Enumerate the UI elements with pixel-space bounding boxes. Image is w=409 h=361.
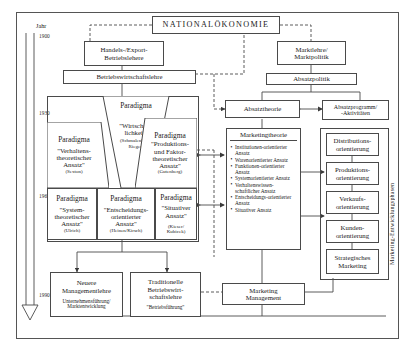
node-kundenorientierung[interactable]: Kunden- orientierung: [326, 220, 379, 243]
node-paradigma-systemtheoretisch[interactable]: Paradigma "System- theoretischer Ansatz"…: [47, 188, 97, 240]
system-head: Paradigma: [56, 195, 88, 203]
phase3-line2: orientierung: [336, 232, 369, 239]
list-item: Verhaltenswissen-schaftlicher Ansatz: [230, 182, 297, 195]
verhalten-head: Paradigma: [58, 136, 90, 144]
produktions-line2: und Faktor-: [154, 148, 186, 155]
traditionell-sub1: "Betriebsführung": [147, 305, 185, 311]
year-1990: 1990: [39, 292, 50, 298]
node-strategisches-marketing[interactable]: Strategisches Marketing: [326, 249, 379, 274]
list-item: Entscheidungs-orientierter Ansatz: [230, 194, 297, 207]
list-item: Funktionen-orientierter Ansatz: [230, 163, 297, 176]
verhalten-line2: theoretischer: [56, 154, 91, 161]
node-handels-export-betriebslehere[interactable]: Handels-/Export- Betriebslehere: [84, 41, 164, 66]
handels-line2: Betriebslehere: [104, 54, 143, 61]
marketingtheorie-title: Marketingtheorie: [230, 131, 297, 141]
entscheidung-line1: "Entscheidungs-: [104, 206, 149, 213]
verhalten-line1: "Verhaltens-: [57, 147, 91, 154]
absatzpolitik-label: Absatzpolitik: [293, 75, 330, 82]
phase2-line1: Verkaufs-: [339, 195, 365, 202]
system-line2: theoretischer: [54, 213, 89, 220]
diagram-canvas: NATIONALÖKONOMIE Jahr 1900 1930 1960 199…: [0, 0, 409, 361]
traditionell-line1: Traditionelle: [148, 278, 183, 285]
node-paradigma-produktions-faktortheoretisch[interactable]: Paradigma "Produktions- und Faktor- theo…: [135, 118, 197, 188]
node-marktlehre-marktpolitik[interactable]: Marktlehre/ Marktpolitik: [277, 41, 346, 65]
bwl-label: Betriebswirtschaftslehre: [96, 73, 162, 80]
axis-caption: Jahr: [36, 22, 46, 29]
produktions-line1: "Produktions-: [151, 140, 189, 147]
marketingtheorie-list: Institutionen-orientierter Ansatz Wareno…: [230, 144, 297, 213]
marketing-entwicklungsphasen-label: Marketing-Entwicklungsphasen: [389, 145, 395, 265]
situativ-line2: Ansatz": [165, 212, 187, 219]
neuere-line2: Managementlehre: [62, 287, 111, 294]
phase0-line2: orientierung: [336, 145, 369, 152]
marktlehre-line1: Marktlehre/: [295, 46, 327, 53]
produktions-head: Paradigma: [154, 132, 186, 140]
node-betriebswirtschaftslehre[interactable]: Betriebswirtschaftslehre: [63, 70, 196, 84]
absatzprogramm-line2: -Aktivitäten: [341, 110, 370, 116]
situativ-src2: Kubicek): [167, 229, 186, 234]
situativ-line1: "Situativer: [161, 204, 190, 211]
marktlehre-line2: Marktpolitik: [294, 53, 328, 60]
wirtschaftlichkeit-head: Paradigma: [120, 102, 152, 110]
entscheidung-head: Paradigma: [110, 195, 142, 203]
entscheidung-src: (Heinen/Kirsch): [110, 228, 143, 233]
node-distributionsorientierung[interactable]: Distributions- orientierung: [326, 133, 379, 156]
traditionell-line3: schaftslehre: [149, 293, 181, 300]
produktions-line4: Ansatz": [159, 162, 181, 169]
neuere-line1: Neuere: [77, 279, 97, 286]
mm-line2: Management: [246, 294, 281, 301]
node-traditionelle-bwl[interactable]: Traditionelle Betriebswirt- schaftslehre…: [130, 272, 201, 317]
traditionell-line2: Betriebswirt-: [148, 286, 184, 293]
node-absatzprogramm-aktivitaeten[interactable]: Absatzprogramm/ -Aktivitäten: [322, 100, 389, 120]
handels-line1: Handels-/Export-: [100, 46, 147, 53]
year-1900: 1900: [39, 33, 50, 39]
node-marketing-management[interactable]: Marketing Management: [222, 283, 305, 305]
node-absatzpolitik[interactable]: Absatzpolitik: [266, 73, 357, 85]
node-paradigma-entscheidungsorientiert[interactable]: Paradigma "Entscheidungs- orientierter A…: [97, 188, 155, 240]
nationaloekonomie-label: NATIONALÖKONOMIE: [163, 21, 270, 30]
node-verkaufsorientierung[interactable]: Verkaufs- orientierung: [326, 191, 379, 214]
verhalten-src: (Sexton): [65, 169, 82, 174]
list-item: Institutionen-orientierter Ansatz: [230, 144, 297, 157]
phase2-line2: orientierung: [336, 203, 369, 210]
node-paradigma-verhaltenstheoretisch[interactable]: Paradigma "Verhaltens- theoretischer Ans…: [47, 122, 109, 188]
node-marketingtheorie[interactable]: Marketingtheorie Institutionen-orientier…: [226, 128, 301, 250]
mm-line1: Marketing: [249, 287, 277, 294]
neuere-sub2: Marktentwicklung: [67, 304, 105, 310]
situativ-head: Paradigma: [160, 194, 192, 202]
entscheidung-line3: Ansatz": [115, 220, 137, 227]
verhalten-line3: Ansatz": [63, 161, 85, 168]
phase0-line1: Distributions-: [334, 137, 372, 144]
node-nationaloekonomie[interactable]: NATIONALÖKONOMIE: [152, 16, 280, 34]
phase4-line2: Marketing: [338, 262, 366, 269]
list-item: Situativer Ansatz: [230, 207, 297, 213]
node-produktionsorientierung[interactable]: Produktions- orientierung: [326, 162, 379, 185]
system-line3: Ansatz": [61, 220, 83, 227]
phase1-line2: orientierung: [336, 174, 369, 181]
produktions-line3: theoretischer: [152, 155, 187, 162]
node-absatztheorie[interactable]: Absatztheorie: [225, 100, 300, 118]
node-paradigma-situativ[interactable]: Paradigma "Situativer Ansatz" (Kieser/ K…: [155, 188, 197, 240]
entscheidung-line2: orientierter: [111, 213, 141, 220]
phase3-line1: Kunden-: [341, 224, 365, 231]
phase1-line1: Produktions-: [335, 166, 370, 173]
absatztheorie-label: Absatztheorie: [244, 105, 282, 112]
produktions-src: (Gutenberg): [158, 169, 182, 174]
phase4-line1: Strategisches: [335, 254, 371, 261]
node-neuere-managementlehre[interactable]: Neuere Managementlehre Unternehmensführu…: [50, 272, 123, 317]
system-src: (Ulrich): [64, 228, 80, 233]
system-line1: "System-: [59, 206, 84, 213]
